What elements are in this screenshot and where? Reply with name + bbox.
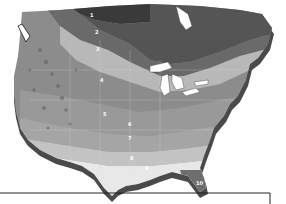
zone-label-2: 2 <box>95 29 99 35</box>
zone-label-4: 4 <box>100 77 104 83</box>
zone-label-1: 1 <box>90 12 94 18</box>
zone-label-7: 7 <box>128 135 132 141</box>
legend-frame <box>0 193 270 204</box>
zone-label-9: 9 <box>145 165 149 171</box>
zone-label-5: 5 <box>103 111 107 117</box>
zone-label-10: 10 <box>196 180 203 186</box>
zone-label-8: 8 <box>130 155 134 161</box>
hardiness-zone-map: 1 2 3 4 5 6 7 8 9 10 <box>0 0 286 204</box>
zone-label-3: 3 <box>96 46 100 52</box>
zone-label-6: 6 <box>128 121 132 127</box>
